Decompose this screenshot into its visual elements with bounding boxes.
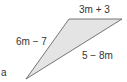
question-label: a (1, 67, 7, 78)
side-label-top: 3m + 3 (79, 4, 110, 15)
side-label-left: 6m − 7 (16, 36, 47, 47)
triangle (26, 19, 122, 79)
side-label-right: 5 − 8m (82, 50, 113, 61)
